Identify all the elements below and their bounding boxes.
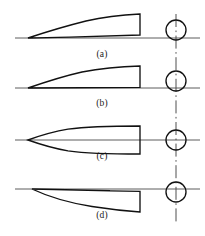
panel-a-profile-outline [28, 14, 140, 38]
panel-b-group [15, 66, 200, 91]
panel-d-group [15, 182, 200, 212]
panel-b-profile-outline [28, 66, 140, 88]
figure-drawing [0, 0, 205, 236]
panel-label-c: (c) [82, 152, 122, 162]
panel-c-group [15, 126, 200, 154]
panel-d-profile-outline [32, 189, 140, 212]
panel-label-b: (b) [82, 99, 122, 109]
panel-a-group [15, 14, 200, 40]
figure-container: (a) (b) (c) (d) [0, 0, 205, 236]
panel-label-d: (d) [82, 211, 122, 221]
panel-label-a: (a) [82, 50, 122, 60]
